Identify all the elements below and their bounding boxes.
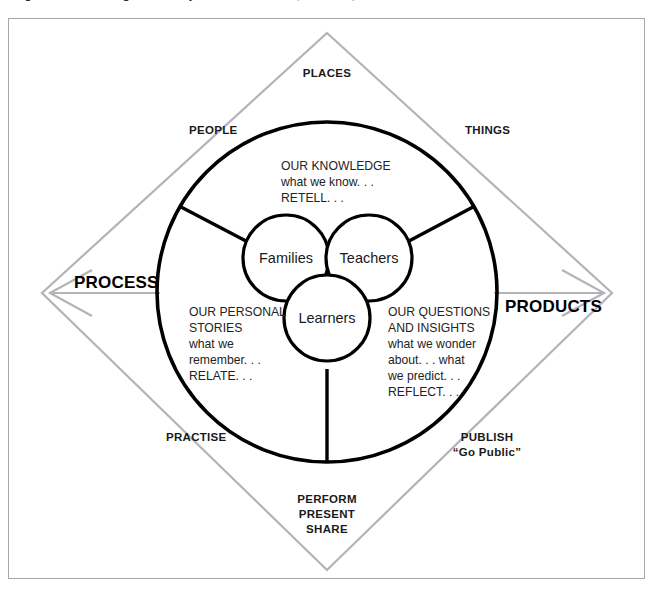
- label-practise: PRACTISE: [166, 431, 227, 443]
- node-label-teachers: Teachers: [340, 250, 399, 266]
- personal-line-4: remember. . .: [189, 353, 261, 367]
- questions-line-2: AND INSIGHTS: [388, 321, 475, 335]
- label-process: PROCESS: [74, 273, 159, 292]
- personal-line-5: RELATE. . .: [189, 369, 252, 383]
- label-people: PEOPLE: [189, 124, 237, 136]
- label-perform: PERFORM: [297, 493, 357, 505]
- questions-line-5: we predict. . .: [387, 369, 460, 383]
- learning-community-diagram: Families Teachers Learners OUR KNOWLEDGE…: [0, 0, 653, 591]
- personal-line-2: STORIES: [189, 321, 242, 335]
- sector-text-knowledge: OUR KNOWLEDGE what we know. . . RETELL. …: [280, 159, 391, 205]
- knowledge-line-3: RETELL. . .: [281, 191, 344, 205]
- personal-line-1: OUR PERSONAL: [189, 305, 286, 319]
- node-label-families: Families: [259, 250, 313, 266]
- label-things: THINGS: [465, 124, 510, 136]
- knowledge-line-2: what we know. . .: [280, 175, 374, 189]
- node-label-learners: Learners: [298, 310, 355, 326]
- spoke-upper-right: [409, 207, 473, 241]
- label-present: PRESENT: [299, 508, 355, 520]
- questions-line-6: REFLECT. . .: [388, 385, 459, 399]
- personal-line-3: what we: [188, 337, 234, 351]
- label-go-public: “Go Public”: [453, 446, 521, 458]
- figure-page: Figure : The learning community model — …: [0, 0, 653, 591]
- sector-text-questions-insights: OUR QUESTIONS AND INSIGHTS what we wonde…: [387, 305, 490, 399]
- questions-line-3: what we wonder: [387, 337, 476, 351]
- spoke-upper-left: [181, 207, 246, 241]
- knowledge-line-1: OUR KNOWLEDGE: [281, 159, 391, 173]
- questions-line-4: about. . . what: [388, 353, 465, 367]
- label-publish: PUBLISH: [461, 431, 514, 443]
- label-share: SHARE: [306, 523, 348, 535]
- label-products: PRODUCTS: [505, 297, 602, 316]
- questions-line-1: OUR QUESTIONS: [388, 305, 490, 319]
- label-places: PLACES: [303, 67, 351, 79]
- sector-text-personal-stories: OUR PERSONAL STORIES what we remember. .…: [188, 305, 286, 383]
